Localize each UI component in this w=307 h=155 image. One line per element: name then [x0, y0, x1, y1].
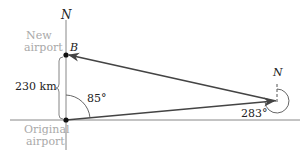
distance-label: 230 km [15, 81, 57, 92]
point-b-dot [63, 52, 68, 57]
distance-brace [56, 57, 63, 119]
angle-283-label: 283° [241, 108, 268, 119]
north-label-right: N [273, 67, 283, 78]
north-label-left: N [61, 9, 72, 21]
original-airport-label-2: airport [26, 136, 65, 147]
angle-85-label: 85° [87, 93, 107, 104]
original-airport-label-1: Original [24, 124, 70, 135]
new-airport-label-1: New [26, 30, 52, 41]
point-b-label: B [70, 42, 78, 53]
new-airport-label-2: airport [24, 42, 63, 53]
origin-dot [63, 117, 68, 122]
